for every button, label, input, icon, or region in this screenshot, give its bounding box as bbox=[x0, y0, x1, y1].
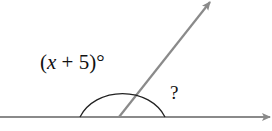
unknown-angle-label: ? bbox=[170, 82, 178, 104]
angle-label-variable: x bbox=[47, 50, 56, 74]
angle-label-prefix: ( bbox=[40, 50, 47, 74]
supplementary-angle-diagram: (x + 5)° ? bbox=[0, 0, 272, 131]
oblique-ray bbox=[119, 2, 210, 117]
angle-label-suffix: + 5)° bbox=[56, 50, 104, 74]
angle-label-x-plus-5: (x + 5)° bbox=[40, 50, 105, 75]
